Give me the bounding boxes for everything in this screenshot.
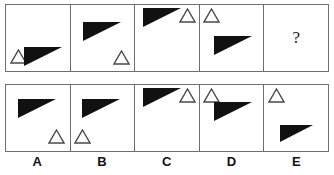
hollow-triangle-icon — [268, 88, 285, 103]
option-cell-b[interactable] — [71, 85, 136, 151]
question-cell-2 — [71, 5, 136, 71]
option-cell-d[interactable] — [200, 85, 265, 151]
solid-triangle-icon — [83, 22, 121, 41]
solid-triangle-icon — [143, 8, 181, 27]
solid-triangle-icon — [143, 88, 181, 107]
question-cell-3 — [135, 5, 200, 71]
hollow-triangle-icon — [203, 8, 220, 23]
option-label-a: A — [5, 154, 70, 169]
option-cell-c[interactable] — [135, 85, 200, 151]
solid-triangle-icon — [280, 125, 313, 142]
hollow-triangle-icon — [203, 88, 220, 103]
question-mark: ? — [264, 28, 328, 48]
hollow-triangle-icon — [74, 129, 91, 144]
question-row: ? — [5, 4, 329, 72]
option-label-e: E — [264, 154, 329, 169]
options-row — [5, 84, 329, 152]
hollow-triangle-icon — [179, 8, 196, 23]
solid-triangle-icon — [214, 36, 252, 55]
question-cell-4 — [200, 5, 265, 71]
option-cell-a[interactable] — [6, 85, 71, 151]
option-labels: A B C D E — [5, 154, 329, 169]
option-label-b: B — [70, 154, 135, 169]
option-label-c: C — [135, 154, 200, 169]
solid-triangle-icon — [82, 99, 120, 118]
matrix-reasoning-puzzle: ? — [0, 0, 334, 175]
solid-triangle-icon — [24, 47, 62, 66]
solid-triangle-icon — [214, 102, 252, 121]
option-cell-e[interactable] — [264, 85, 328, 151]
question-cell-1 — [6, 5, 71, 71]
option-label-d: D — [199, 154, 264, 169]
question-cell-5-unknown: ? — [264, 5, 328, 71]
solid-triangle-icon — [18, 99, 56, 118]
hollow-triangle-icon — [48, 129, 65, 144]
hollow-triangle-icon — [113, 50, 130, 65]
hollow-triangle-icon — [179, 88, 196, 103]
